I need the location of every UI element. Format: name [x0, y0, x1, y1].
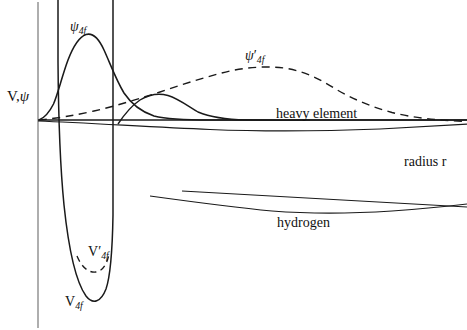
y-axis-label: V,ψ — [7, 89, 29, 104]
psi-4f-prime-label-sub: 4f — [257, 54, 265, 65]
hydrogen-reference-line — [182, 191, 467, 207]
y-axis-label-psi: ψ — [20, 88, 29, 104]
figure-canvas: V,ψ ψ4f ψ′4f heavy element radius r hydr… — [0, 0, 467, 330]
V4f-prime-label-base: V — [88, 244, 98, 259]
V4f-label-sub: 4f — [75, 300, 83, 311]
V4f-label-base: V — [65, 294, 75, 309]
psi-4f-prime-wavefunction — [39, 67, 467, 122]
plot-svg — [0, 0, 467, 330]
psi-4f-prime-label: ψ′4f — [245, 49, 264, 65]
psi-4f-prime-label-base: ψ — [245, 48, 254, 63]
hydrogen-label: hydrogen — [277, 216, 330, 230]
psi-4f-label-base: ψ — [70, 19, 79, 34]
V4f-prime-label: V′4f — [88, 245, 109, 261]
y-axis-label-v: V, — [7, 88, 20, 104]
psi-4f-label: ψ4f — [70, 20, 86, 36]
V4f-prime-label-sub: 4f — [101, 250, 109, 261]
psi-4f-label-sub: 4f — [79, 25, 87, 36]
V4f-label: V4f — [65, 295, 83, 311]
heavy-element-label: heavy element — [276, 107, 357, 121]
heavy-element-potential-tail — [38, 121, 467, 131]
x-axis-label: radius r — [404, 155, 446, 169]
